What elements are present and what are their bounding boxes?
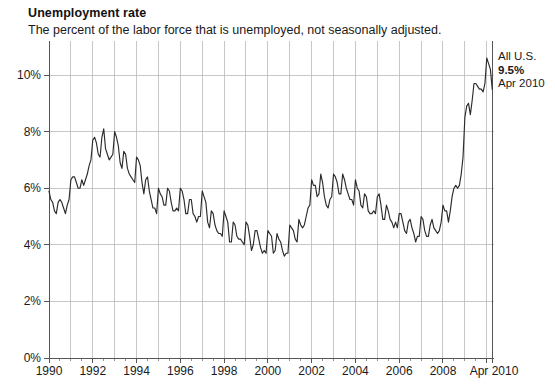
data-series-group <box>49 58 492 256</box>
horizontal-gridlines <box>49 75 494 301</box>
x-tick-label: 2000 <box>255 364 282 378</box>
axis-lines <box>49 41 494 358</box>
x-tick-label: 1998 <box>211 364 238 378</box>
y-tick-label: 8% <box>24 125 42 139</box>
x-tick-label: 2002 <box>298 364 325 378</box>
annotation-value: 9.5% <box>498 64 555 78</box>
y-axis-tick-labels: 0%2%4%6%8%10% <box>17 68 41 365</box>
y-tick-label: 4% <box>24 238 42 252</box>
x-axis-tick-labels: 1990199219941996199820002002200420062008… <box>36 364 519 378</box>
x-tick-label: Apr 2010 <box>470 364 519 378</box>
x-tick-label: 1992 <box>79 364 106 378</box>
y-tick-label: 2% <box>24 294 42 308</box>
chart-plot-area: 0%2%4%6%8%10% 19901992199419961998200020… <box>0 0 555 391</box>
x-tick-label: 1996 <box>167 364 194 378</box>
y-tick-label: 10% <box>17 68 41 82</box>
x-tick-label: 2006 <box>386 364 413 378</box>
annotation-region: All U.S. <box>498 50 555 64</box>
annotation-date: Apr 2010 <box>498 77 555 91</box>
y-tick-label: 6% <box>24 181 42 195</box>
x-tick-label: 1994 <box>123 364 150 378</box>
x-tick-label: 2008 <box>430 364 457 378</box>
series-annotation: All U.S. 9.5% Apr 2010 <box>498 50 555 91</box>
vertical-gridlines <box>49 41 487 358</box>
y-tick-label: 0% <box>24 351 42 365</box>
x-tick-label: 1990 <box>36 364 63 378</box>
series-line-all-us <box>49 58 492 256</box>
x-tick-label: 2004 <box>342 364 369 378</box>
unemployment-rate-line-chart: 0%2%4%6%8%10% 19901992199419961998200020… <box>0 0 555 391</box>
